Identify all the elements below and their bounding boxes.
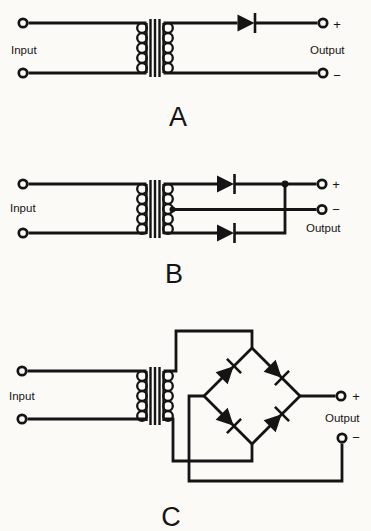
rectifier-circuits-figure: Input Output + − A Input Output — [0, 0, 371, 531]
wire — [164, 419, 253, 461]
circuits-canvas: Input Output + − A Input Output — [0, 0, 371, 531]
wire — [164, 331, 253, 371]
diagram-a-label: A — [169, 102, 187, 132]
transformer-icon — [137, 367, 173, 425]
input-terminal-icon — [19, 69, 27, 77]
diode-icon — [217, 174, 235, 194]
output-minus-terminal-icon — [318, 205, 326, 213]
bridge-diamond — [204, 348, 300, 444]
diagram-b: Input Output + − B — [10, 174, 341, 289]
output-minus-terminal-icon — [338, 434, 346, 442]
plus-sign: + — [352, 389, 360, 404]
input-terminal-icon — [19, 19, 27, 27]
input-terminal-icon — [18, 367, 26, 375]
diode-icon — [238, 13, 256, 33]
diode-icon — [217, 223, 235, 243]
center-tap-dot — [170, 207, 176, 213]
output-plus-terminal-icon — [319, 19, 327, 27]
output-label: Output — [325, 412, 360, 424]
transformer-icon — [137, 19, 173, 77]
diagram-a: Input Output + − A — [11, 13, 345, 132]
input-label: Input — [11, 44, 37, 56]
input-terminal-icon — [19, 229, 27, 237]
output-label: Output — [310, 44, 345, 56]
minus-sign: − — [333, 68, 341, 83]
input-terminal-icon — [18, 415, 26, 423]
output-plus-terminal-icon — [337, 392, 345, 400]
wire — [189, 396, 342, 481]
minus-sign: − — [352, 430, 360, 445]
output-label: Output — [306, 222, 341, 234]
output-plus-terminal-icon — [318, 180, 326, 188]
output-minus-terminal-icon — [319, 69, 327, 77]
transformer-icon — [137, 180, 173, 238]
input-label: Input — [10, 202, 36, 214]
diagram-c: Input Output + − C — [9, 331, 360, 531]
plus-sign: + — [333, 17, 341, 32]
diagram-c-label: C — [161, 502, 181, 531]
junction-dot — [282, 181, 289, 188]
input-label: Input — [9, 390, 35, 402]
plus-sign: + — [332, 177, 340, 192]
input-terminal-icon — [19, 180, 27, 188]
diagram-b-label: B — [165, 259, 183, 289]
minus-sign: − — [332, 202, 340, 217]
